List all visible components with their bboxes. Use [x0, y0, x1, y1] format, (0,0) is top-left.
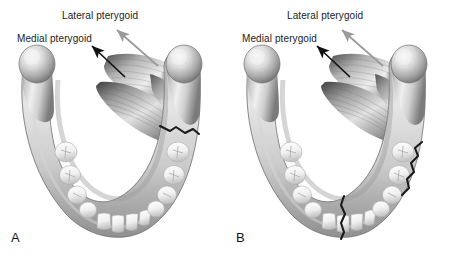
- left-condyle-highlight: [249, 49, 265, 65]
- tooth: [112, 215, 124, 233]
- tooth: [97, 213, 111, 230]
- figure-container: Lateral pterygoid Medial pterygoid A: [0, 0, 450, 261]
- tooth: [55, 142, 77, 162]
- tooth: [280, 142, 302, 162]
- tooth: [392, 142, 414, 162]
- right-condyle-highlight: [171, 49, 187, 65]
- panel-b: Lateral pterygoid Medial pterygoid B: [225, 0, 450, 261]
- tooth: [148, 201, 165, 217]
- right-condyle: [391, 45, 427, 83]
- tooth: [373, 201, 390, 217]
- tooth: [126, 214, 138, 231]
- left-condyle-highlight: [24, 49, 40, 65]
- panel-a: Lateral pterygoid Medial pterygoid A: [0, 0, 225, 261]
- tooth: [80, 202, 97, 218]
- medial-pterygoid-label: Medial pterygoid: [17, 33, 92, 44]
- lateral-pterygoid-label: Lateral pterygoid: [62, 10, 138, 21]
- medial-pterygoid-label: Medial pterygoid: [242, 33, 317, 44]
- lateral-pterygoid-label: Lateral pterygoid: [287, 10, 363, 21]
- left-condyle: [244, 45, 280, 83]
- tooth: [322, 213, 336, 230]
- panel-letter-a: A: [11, 230, 20, 245]
- tooth: [167, 142, 189, 162]
- panel-letter-b: B: [236, 230, 245, 245]
- tooth: [305, 202, 322, 218]
- left-condyle: [19, 45, 55, 83]
- right-condyle-highlight: [396, 49, 412, 65]
- tooth: [351, 214, 363, 231]
- right-condyle: [166, 45, 202, 83]
